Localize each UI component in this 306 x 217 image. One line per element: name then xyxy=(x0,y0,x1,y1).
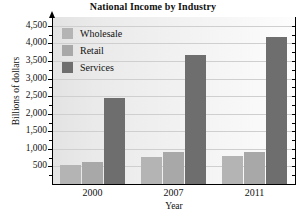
y-axis-tick-label: 500 xyxy=(33,160,47,170)
y-axis-tick-minor xyxy=(49,175,52,176)
y-axis-tick-major xyxy=(48,114,52,115)
y-axis-line xyxy=(52,17,53,185)
x-axis-line xyxy=(52,184,296,185)
bar-group-2007 xyxy=(133,17,214,184)
y-axis-tick-major xyxy=(48,79,52,80)
bar-wholesale-2011 xyxy=(222,156,244,184)
legend-swatch-retail-icon xyxy=(62,45,73,56)
right-axis-tick-major xyxy=(292,114,296,115)
x-axis-title: Year xyxy=(52,201,296,211)
y-axis-tick-label: 3,500 xyxy=(26,55,47,65)
legend-label: Retail xyxy=(80,45,104,56)
bar-services-2000 xyxy=(104,98,126,184)
right-axis-tick-minor xyxy=(292,35,295,36)
right-axis-tick-minor xyxy=(292,52,295,53)
y-axis-tick-major xyxy=(48,166,52,167)
y-axis-tick-label: 1,500 xyxy=(26,125,47,135)
right-axis-tick-major xyxy=(292,149,296,150)
right-axis-tick-minor xyxy=(292,70,295,71)
y-axis-tick-minor xyxy=(49,87,52,88)
right-axis-tick-major xyxy=(292,61,296,62)
right-axis-tick-minor xyxy=(292,158,295,159)
right-axis-tick-major xyxy=(292,131,296,132)
bar-chart: National Income by Industry WholesaleRet… xyxy=(0,0,306,217)
bar-group-2011 xyxy=(214,17,295,184)
y-axis-tick-label: 4,000 xyxy=(26,37,47,47)
chart-title: National Income by Industry xyxy=(0,1,306,12)
x-axis-tick-label-2000: 2000 xyxy=(63,187,123,198)
right-axis-tick-minor xyxy=(292,123,295,124)
right-axis-tick-minor xyxy=(292,87,295,88)
y-axis-tick-major xyxy=(48,61,52,62)
y-axis-tick-major xyxy=(48,96,52,97)
right-axis-tick-major xyxy=(292,96,296,97)
y-axis-tick-label: 1,000 xyxy=(26,143,47,153)
bar-services-2011 xyxy=(266,37,288,184)
y-axis-tick-label: 3,000 xyxy=(26,73,47,83)
right-axis-tick-minor xyxy=(292,140,295,141)
legend-swatch-wholesale-icon xyxy=(62,28,73,39)
right-axis-tick-minor xyxy=(292,105,295,106)
bar-services-2007 xyxy=(185,55,207,184)
y-axis-tick-minor xyxy=(49,52,52,53)
y-axis-tick-label: 2,500 xyxy=(26,90,47,100)
x-axis-tick-label-2011: 2011 xyxy=(225,187,285,198)
right-axis-tick-minor xyxy=(292,175,295,176)
right-axis-tick-major xyxy=(292,43,296,44)
legend-swatch-services-icon xyxy=(62,62,73,73)
right-axis-tick-major xyxy=(292,26,296,27)
y-axis-tick-minor xyxy=(49,123,52,124)
bar-retail-2007 xyxy=(163,152,185,184)
legend-label: Services xyxy=(80,62,114,73)
y-axis-tick-minor xyxy=(49,140,52,141)
y-axis-tick-major xyxy=(48,43,52,44)
y-axis-tick-label: 2,000 xyxy=(26,108,47,118)
legend-item-retail[interactable]: Retail xyxy=(62,44,122,57)
legend-item-services[interactable]: Services xyxy=(62,61,122,74)
y-axis-tick-minor xyxy=(49,35,52,36)
y-axis-tick-minor xyxy=(49,70,52,71)
y-axis-arrow-icon xyxy=(49,11,55,18)
x-axis-tick-label-2007: 2007 xyxy=(144,187,204,198)
bar-retail-2011 xyxy=(244,152,266,184)
right-axis-tick-major xyxy=(292,166,296,167)
y-axis-tick-major xyxy=(48,131,52,132)
y-axis-tick-minor xyxy=(49,158,52,159)
plot-area: WholesaleRetailServices xyxy=(52,17,295,184)
bar-retail-2000 xyxy=(82,162,104,184)
right-axis-tick-major xyxy=(292,79,296,80)
right-axis-line xyxy=(295,17,296,185)
y-axis-tick-label: 4,500 xyxy=(26,20,47,30)
y-axis-tick-major xyxy=(48,149,52,150)
bar-wholesale-2000 xyxy=(60,165,82,184)
y-axis-tick-major xyxy=(48,26,52,27)
y-axis-tick-minor xyxy=(49,105,52,106)
legend-label: Wholesale xyxy=(80,28,122,39)
y-axis-title: Billions of dollars xyxy=(11,26,21,156)
legend-item-wholesale[interactable]: Wholesale xyxy=(62,27,122,40)
bar-wholesale-2007 xyxy=(141,157,163,184)
chart-legend: WholesaleRetailServices xyxy=(62,27,122,78)
